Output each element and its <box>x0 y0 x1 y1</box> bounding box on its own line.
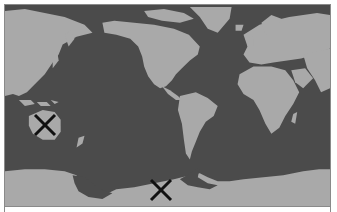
land-new-zealand <box>77 136 85 148</box>
x-mark-icon <box>32 112 58 138</box>
map-bottom-edge <box>4 207 331 212</box>
map-land-layer <box>5 5 330 206</box>
land-greenland <box>190 7 232 33</box>
land-africa <box>238 66 300 133</box>
land-asia-east <box>5 9 92 96</box>
land-south-america <box>178 92 218 159</box>
land-madagascar <box>291 112 297 124</box>
world-map <box>4 4 331 207</box>
marker-x-australia[interactable] <box>32 112 58 138</box>
x-mark-icon <box>148 177 174 203</box>
land-north-america <box>102 21 199 88</box>
land-asia-west <box>303 49 330 93</box>
land-indonesia <box>19 100 59 106</box>
land-iceland <box>236 25 244 31</box>
marker-x-antarctica[interactable] <box>148 177 174 203</box>
land-central-america <box>162 86 182 100</box>
land-arctic-islands <box>144 9 194 23</box>
